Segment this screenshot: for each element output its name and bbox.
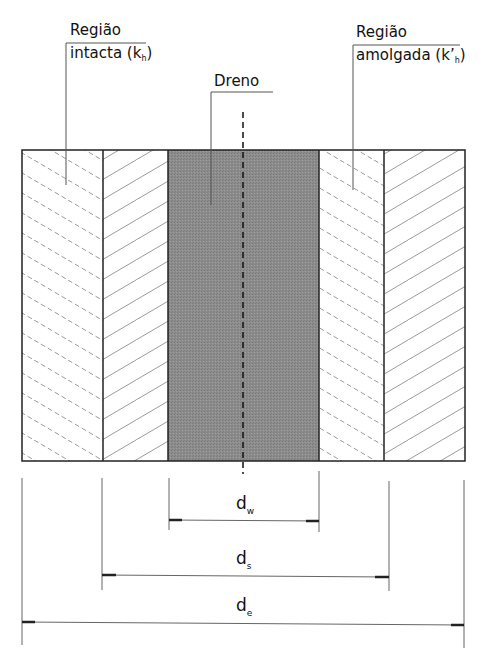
label-intact-line2: intacta (kh) bbox=[70, 44, 152, 68]
label-drain: Dreno bbox=[214, 72, 259, 90]
smear-region-left bbox=[103, 150, 168, 461]
label-intact-close: ) bbox=[146, 44, 152, 62]
label-drain-text: Dreno bbox=[214, 72, 259, 90]
smear-region-right bbox=[319, 150, 384, 461]
dim-de-sub: e bbox=[247, 608, 253, 618]
dim-line-dw bbox=[169, 520, 319, 521]
dim-label-de: de bbox=[236, 596, 252, 622]
label-smear-region: Região amolgada (k’h) bbox=[356, 23, 466, 70]
label-smear-close: ) bbox=[460, 46, 466, 64]
dim-label-ds: ds bbox=[236, 549, 252, 575]
dim-line-de bbox=[22, 622, 464, 625]
dim-dw-base: d bbox=[236, 493, 247, 513]
label-smear-line2: amolgada (k’h) bbox=[356, 46, 466, 70]
dim-line-ds bbox=[102, 575, 389, 577]
dim-label-dw: dw bbox=[236, 494, 254, 520]
dim-dw-sub: w bbox=[247, 506, 254, 516]
intact-region-left bbox=[22, 150, 103, 461]
dim-de-base: d bbox=[236, 595, 247, 615]
label-smear-text: amolgada (k’ bbox=[356, 46, 455, 64]
dim-ds-sub: s bbox=[247, 561, 252, 571]
label-intact-text: intacta (k bbox=[70, 44, 141, 62]
label-intact-region: Região intacta (kh) bbox=[70, 21, 152, 68]
intact-region-right bbox=[384, 150, 465, 461]
label-intact-line1: Região bbox=[70, 21, 152, 39]
vertical-drain-diagram bbox=[0, 0, 504, 663]
dim-ds-base: d bbox=[236, 548, 247, 568]
label-smear-line1: Região bbox=[356, 23, 466, 41]
